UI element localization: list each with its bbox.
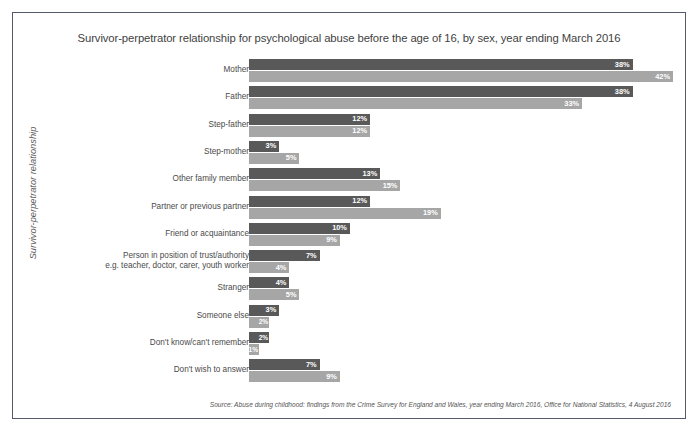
bar-women: 1% — [249, 344, 259, 355]
chart-figure: Survivor-perpetrator relationship for ps… — [12, 12, 686, 419]
bar-group: 38%33% — [249, 86, 633, 110]
bar-men: 12% — [249, 114, 370, 125]
bar-men: 2% — [249, 332, 269, 343]
category-label: Don't wish to answer — [19, 365, 249, 375]
category-label: Friend or acquaintance — [19, 229, 249, 239]
category-label: Father — [19, 92, 249, 102]
bar-men: 12% — [249, 196, 370, 207]
bar-value-label: 7% — [306, 361, 317, 368]
bar-value-label: 4% — [276, 279, 287, 286]
bar-value-label: 42% — [655, 73, 670, 80]
bar-value-label: 19% — [423, 209, 438, 216]
bar-group: 38%42% — [249, 59, 673, 83]
category-label: Step-father — [19, 120, 249, 130]
bar-group: 4%5% — [249, 277, 299, 301]
bar-women: 19% — [249, 208, 441, 219]
bar-value-label: 2% — [259, 334, 269, 341]
bar-group: 12%19% — [249, 196, 441, 220]
bar-value-label: 15% — [383, 182, 398, 189]
bar-men: 10% — [249, 223, 350, 234]
bar-men: 38% — [249, 59, 633, 70]
bar-group: 13%15% — [249, 168, 400, 192]
bar-women: 12% — [249, 126, 370, 137]
bar-men: 38% — [249, 86, 633, 97]
bar-value-label: 3% — [266, 306, 277, 313]
bar-group: 7%9% — [249, 359, 340, 383]
bar-value-label: 13% — [362, 170, 377, 177]
bar-men: 13% — [249, 168, 380, 179]
category-label: Don't know/can't remember — [19, 338, 249, 348]
category-label: Mother — [19, 65, 249, 75]
bar-value-label: 7% — [306, 252, 317, 259]
bar-group: 3%5% — [249, 141, 299, 165]
bar-women: 4% — [249, 262, 289, 273]
bar-women: 2% — [249, 317, 269, 328]
bar-value-label: 4% — [276, 264, 287, 271]
bar-group: 7%4% — [249, 250, 320, 274]
bar-value-label: 12% — [352, 197, 367, 204]
category-label: Person in position of trust/authority e.… — [19, 251, 249, 271]
bar-value-label: 3% — [266, 143, 277, 150]
chart-title: Survivor-perpetrator relationship for ps… — [13, 32, 685, 44]
bar-women: 15% — [249, 180, 400, 191]
bar-value-label: 2% — [259, 319, 269, 326]
bar-group: 10%9% — [249, 223, 350, 247]
bar-group: 3%2% — [249, 305, 279, 329]
bar-women: 42% — [249, 71, 673, 82]
bar-value-label: 38% — [615, 88, 630, 95]
bar-group: 12%12% — [249, 114, 370, 138]
category-label: Stranger — [19, 283, 249, 293]
bar-value-label: 1% — [249, 346, 259, 353]
bar-women: 33% — [249, 98, 582, 109]
bar-value-label: 5% — [286, 291, 297, 298]
bar-value-label: 5% — [286, 155, 297, 162]
bar-women: 9% — [249, 235, 340, 246]
bar-men: 7% — [249, 359, 320, 370]
bar-value-label: 9% — [326, 237, 337, 244]
plot-area: Mother38%42%Father38%33%Step-father12%12… — [13, 57, 687, 387]
bar-women: 5% — [249, 153, 299, 164]
category-label: Other family member — [19, 174, 249, 184]
bar-women: 5% — [249, 289, 299, 300]
bar-women: 9% — [249, 371, 340, 382]
bar-value-label: 9% — [326, 373, 337, 380]
bar-men: 7% — [249, 250, 320, 261]
bar-value-label: 12% — [352, 115, 367, 122]
bar-men: 4% — [249, 277, 289, 288]
category-label: Someone else — [19, 311, 249, 321]
bar-value-label: 33% — [564, 100, 579, 107]
bar-value-label: 38% — [615, 61, 630, 68]
bar-men: 3% — [249, 305, 279, 316]
bar-men: 3% — [249, 141, 279, 152]
source-note: Source: Abuse during childhood: findings… — [210, 401, 671, 408]
bar-value-label: 10% — [332, 225, 347, 232]
bar-value-label: 12% — [352, 127, 367, 134]
category-label: Partner or previous partner — [19, 202, 249, 212]
category-label: Step-mother — [19, 147, 249, 157]
bar-group: 2%1% — [249, 332, 269, 356]
